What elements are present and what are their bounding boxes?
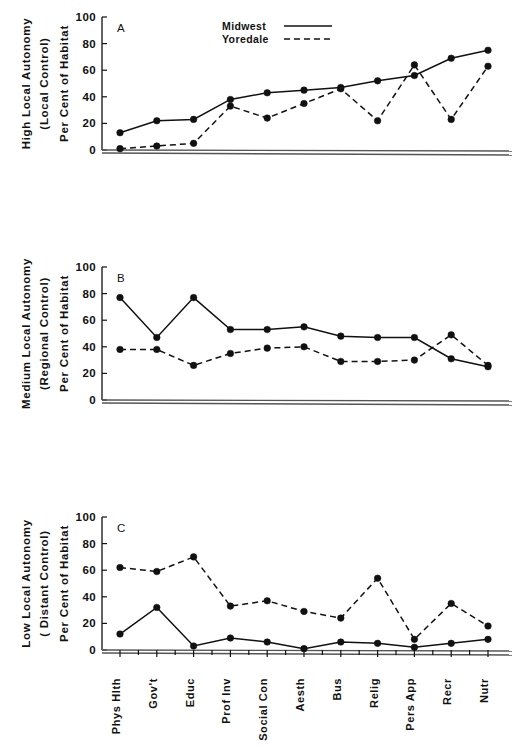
data-point-midwest <box>448 640 455 647</box>
y-axis-tick-label: 40 <box>82 91 96 103</box>
data-point-yoredale <box>190 140 197 147</box>
data-point-midwest <box>301 87 308 94</box>
data-point-yoredale <box>227 350 234 357</box>
data-point-midwest <box>374 78 381 85</box>
data-point-midwest <box>485 636 492 643</box>
data-point-midwest <box>227 326 234 333</box>
data-point-yoredale <box>338 358 345 365</box>
figure-container: High Local Autonomy(Local Control)Per Ce… <box>0 0 518 746</box>
chart-panel-a: High Local Autonomy(Local Control)Per Ce… <box>0 0 518 250</box>
legend-label-yoredale: Yoredale <box>222 33 269 45</box>
value-axis-title: Per Cent of Habitat <box>58 25 70 142</box>
data-point-yoredale <box>117 346 124 353</box>
data-point-yoredale <box>154 346 161 353</box>
panel-letter: A <box>117 22 125 34</box>
data-point-yoredale <box>117 564 124 571</box>
data-point-yoredale <box>301 344 308 351</box>
y-axis-tick-label: 100 <box>76 261 96 273</box>
y-axis-tick-label: 20 <box>82 367 96 379</box>
y-axis-tick-label: 60 <box>82 314 96 326</box>
data-point-midwest <box>117 129 124 136</box>
legend-label-midwest: Midwest <box>222 20 266 32</box>
y-axis-tick-label: 60 <box>82 564 96 576</box>
data-point-yoredale <box>190 362 197 369</box>
panel-title-line2: (Local Control) <box>38 37 50 129</box>
data-point-yoredale <box>301 608 308 615</box>
x-axis-category-label: Prof Inv <box>220 678 232 724</box>
data-point-yoredale <box>374 575 381 582</box>
y-axis-tick-label: 100 <box>76 11 96 23</box>
data-point-yoredale <box>411 357 418 364</box>
data-point-yoredale <box>227 103 234 110</box>
chart-svg-a: High Local Autonomy(Local Control)Per Ce… <box>0 0 518 250</box>
data-point-midwest <box>301 324 308 331</box>
data-point-yoredale <box>301 100 308 107</box>
panel-letter: C <box>117 522 126 534</box>
lower-rule <box>102 403 512 405</box>
x-axis-baseline <box>102 150 512 151</box>
panel-title-line2: ( Distant Control) <box>38 530 50 637</box>
y-axis-tick-label: 100 <box>76 511 96 523</box>
series-line-midwest <box>120 298 488 367</box>
x-axis-baseline <box>102 400 512 401</box>
y-axis-tick-label: 20 <box>82 617 96 629</box>
x-axis-category-label: Pers App <box>404 678 416 731</box>
panel-title-line1: High Local Autonomy <box>20 18 32 150</box>
data-point-midwest <box>374 640 381 647</box>
data-point-midwest <box>190 294 197 301</box>
data-point-midwest <box>117 294 124 301</box>
data-point-yoredale <box>448 332 455 339</box>
y-axis-tick-label: 0 <box>89 644 96 656</box>
data-point-yoredale <box>264 345 271 352</box>
data-point-yoredale <box>190 554 197 561</box>
data-point-yoredale <box>227 603 234 610</box>
value-axis-title: Per Cent of Habitat <box>58 525 70 642</box>
data-point-midwest <box>338 639 345 646</box>
chart-svg-b: Medium Local Autonomy(Regional Control)P… <box>0 250 518 500</box>
data-point-midwest <box>264 90 271 97</box>
x-axis-category-label: Phys Hlth <box>110 678 122 734</box>
panel-title-line1: Low Local Autonomy <box>20 519 32 647</box>
data-point-yoredale <box>411 636 418 643</box>
data-point-midwest <box>154 117 161 124</box>
data-point-midwest <box>227 96 234 103</box>
data-point-midwest <box>448 355 455 362</box>
y-axis-tick-label: 0 <box>89 144 96 156</box>
x-axis-category-label: Educ <box>184 678 196 707</box>
data-point-midwest <box>190 643 197 650</box>
data-point-midwest <box>448 55 455 62</box>
data-point-midwest <box>117 631 124 638</box>
data-point-midwest <box>338 333 345 340</box>
panel-title-line2: (Regional Control) <box>38 277 50 390</box>
data-point-midwest <box>154 604 161 611</box>
data-point-midwest <box>411 644 418 651</box>
y-axis-tick-label: 20 <box>82 117 96 129</box>
data-point-yoredale <box>264 115 271 122</box>
data-point-midwest <box>264 639 271 646</box>
data-point-yoredale <box>485 623 492 630</box>
data-point-yoredale <box>485 63 492 70</box>
data-point-yoredale <box>411 62 418 69</box>
data-point-midwest <box>485 47 492 54</box>
data-point-yoredale <box>117 145 124 152</box>
chart-panel-c: Low Local Autonomy( Distant Control)Per … <box>0 500 518 746</box>
chart-panel-b: Medium Local Autonomy(Regional Control)P… <box>0 250 518 500</box>
panel-title-line1: Medium Local Autonomy <box>20 258 32 409</box>
data-point-midwest <box>301 645 308 652</box>
data-point-midwest <box>264 326 271 333</box>
lower-rule <box>102 653 512 655</box>
y-axis-tick-label: 80 <box>82 538 96 550</box>
y-axis-tick-label: 40 <box>82 591 96 603</box>
x-axis-category-label: Aesth <box>294 678 306 712</box>
data-point-midwest <box>411 334 418 341</box>
data-point-yoredale <box>338 86 345 93</box>
x-axis-category-label: Recr <box>441 678 453 705</box>
lower-rule <box>102 153 512 155</box>
data-point-yoredale <box>154 568 161 575</box>
data-point-yoredale <box>264 597 271 604</box>
panel-letter: B <box>117 272 125 284</box>
y-axis-tick-label: 80 <box>82 288 96 300</box>
x-axis-category-label: Gov't <box>147 678 159 709</box>
data-point-yoredale <box>374 358 381 365</box>
data-point-midwest <box>154 334 161 341</box>
